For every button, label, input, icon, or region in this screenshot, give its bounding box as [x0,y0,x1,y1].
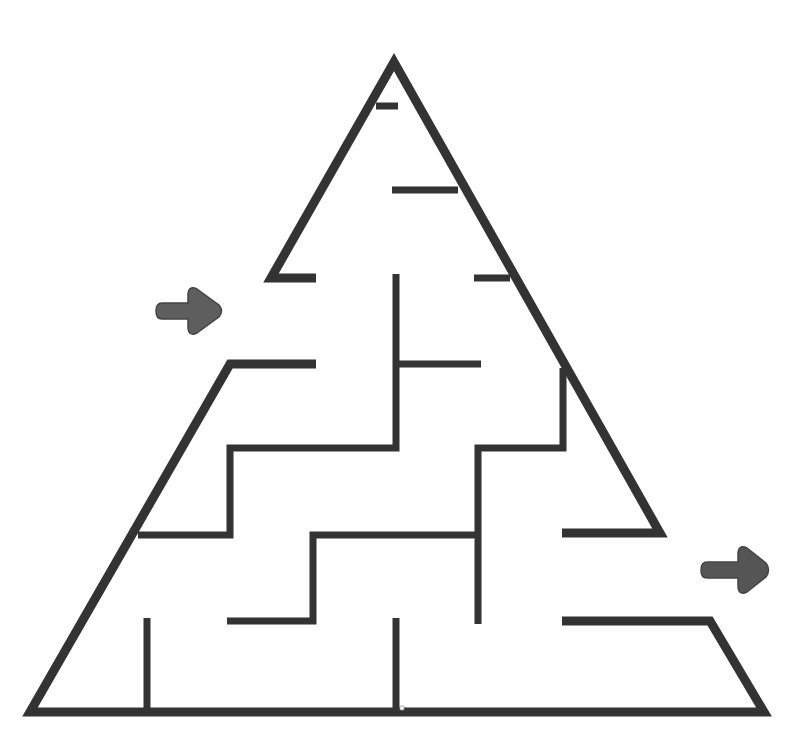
inner-wall [478,368,563,624]
center-marker [400,706,404,710]
right-arrow-icon [156,288,222,334]
right-arrow-icon [701,547,769,593]
inner-wall [227,535,478,621]
exit-arrow[interactable] [701,547,769,593]
triangle-maze [0,0,801,753]
entrance-arrow[interactable] [156,288,222,334]
outer-wall [271,62,660,533]
